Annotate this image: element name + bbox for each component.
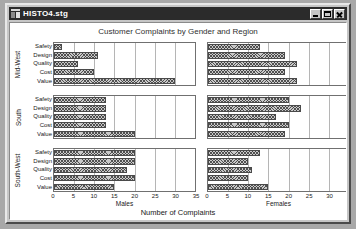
category-labels: SafetyDesignQualityCostValue bbox=[24, 148, 52, 192]
bar-slot bbox=[208, 158, 347, 164]
category-label: Value bbox=[37, 78, 52, 85]
x-tick-label: 10 bbox=[91, 193, 98, 199]
row-label-mid-west: Mid-West bbox=[12, 39, 24, 89]
category-labels: SafetyDesignQualityCostValue bbox=[24, 42, 52, 86]
bar-design[interactable] bbox=[208, 105, 301, 111]
bar-safety[interactable] bbox=[54, 150, 135, 156]
close-button[interactable] bbox=[334, 9, 345, 19]
bar-design[interactable] bbox=[54, 105, 106, 111]
bar-safety[interactable] bbox=[208, 44, 260, 50]
x-tick-label: 15 bbox=[265, 193, 272, 199]
category-label: Cost bbox=[40, 69, 52, 76]
minimize-button[interactable] bbox=[310, 9, 321, 19]
bar-slot bbox=[208, 122, 347, 128]
bar-slot bbox=[54, 150, 195, 156]
category-label: Safety bbox=[35, 149, 52, 156]
category-label: Safety bbox=[35, 96, 52, 103]
bar-slot bbox=[208, 44, 347, 50]
category-label: Quality bbox=[33, 60, 52, 67]
bar-slot bbox=[208, 69, 347, 75]
bar-slot bbox=[208, 175, 347, 181]
bar-slot bbox=[208, 131, 347, 137]
row-label-south-west: South-West bbox=[12, 145, 24, 195]
bar-design[interactable] bbox=[208, 158, 248, 164]
bar-slot bbox=[54, 69, 195, 75]
bar-value[interactable] bbox=[208, 131, 285, 137]
bar-design[interactable] bbox=[54, 158, 135, 164]
bar-quality[interactable] bbox=[54, 167, 127, 173]
subplot-south-males bbox=[53, 95, 196, 139]
application-window: HISTO4.stg Customer Complaints by Gender… bbox=[5, 3, 351, 224]
subplot-mid-west-males bbox=[53, 42, 196, 86]
bar-group bbox=[54, 43, 195, 85]
x-tick-label: 5 bbox=[226, 193, 229, 199]
bar-group bbox=[54, 149, 195, 191]
bar-quality[interactable] bbox=[208, 167, 252, 173]
bar-cost[interactable] bbox=[54, 175, 135, 181]
category-labels: SafetyDesignQualityCostValue bbox=[24, 95, 52, 139]
category-label: Quality bbox=[33, 166, 52, 173]
row-label-text: Mid-West bbox=[15, 50, 22, 77]
title-bar[interactable]: HISTO4.stg bbox=[9, 7, 347, 20]
bar-value[interactable] bbox=[208, 184, 268, 190]
bar-quality[interactable] bbox=[208, 61, 297, 67]
bar-slot bbox=[208, 97, 347, 103]
category-label: Value bbox=[37, 131, 52, 138]
bar-safety[interactable] bbox=[54, 97, 106, 103]
x-tick-label: 30 bbox=[172, 193, 179, 199]
x-tick-label: 0 bbox=[205, 193, 208, 199]
window-controls bbox=[310, 9, 345, 19]
bar-slot bbox=[54, 105, 195, 111]
bar-design[interactable] bbox=[208, 52, 285, 58]
panel-row: Mid-WestSafetyDesignQualityCostValue bbox=[10, 39, 346, 89]
bar-cost[interactable] bbox=[208, 175, 248, 181]
x-tick-label: 0 bbox=[51, 193, 54, 199]
bar-value[interactable] bbox=[208, 78, 297, 84]
bar-quality[interactable] bbox=[208, 114, 276, 120]
bar-slot bbox=[208, 167, 347, 173]
bar-slot bbox=[208, 114, 347, 120]
bar-slot bbox=[54, 122, 195, 128]
category-label: Design bbox=[33, 105, 52, 112]
bar-quality[interactable] bbox=[54, 114, 106, 120]
bar-safety[interactable] bbox=[54, 44, 62, 50]
desktop-background: HISTO4.stg Customer Complaints by Gender… bbox=[0, 0, 356, 229]
category-label: Design bbox=[33, 158, 52, 165]
bar-value[interactable] bbox=[54, 78, 175, 84]
bar-safety[interactable] bbox=[208, 97, 289, 103]
bar-group bbox=[208, 96, 347, 138]
window-title: HISTO4.stg bbox=[23, 9, 68, 18]
bar-value[interactable] bbox=[54, 184, 114, 190]
bar-value[interactable] bbox=[54, 131, 135, 137]
bar-quality[interactable] bbox=[54, 61, 78, 67]
bar-slot bbox=[54, 44, 195, 50]
bar-slot bbox=[54, 175, 195, 181]
bar-slot bbox=[54, 114, 195, 120]
column-label-males: Males bbox=[53, 200, 196, 207]
panel-row: South-WestSafetyDesignQualityCostValue bbox=[10, 145, 346, 195]
row-label-text: South-West bbox=[15, 153, 22, 187]
x-tick-label: 25 bbox=[306, 193, 313, 199]
row-label-south: South bbox=[12, 92, 24, 142]
bar-cost[interactable] bbox=[54, 69, 94, 75]
bar-safety[interactable] bbox=[208, 150, 260, 156]
bar-cost[interactable] bbox=[208, 69, 285, 75]
document-chart-icon bbox=[11, 9, 20, 18]
bar-slot bbox=[54, 131, 195, 137]
bar-group bbox=[54, 96, 195, 138]
subplot-mid-west-females bbox=[207, 42, 347, 86]
maximize-button[interactable] bbox=[322, 9, 333, 19]
bar-design[interactable] bbox=[54, 52, 98, 58]
x-tick-label: 5 bbox=[72, 193, 75, 199]
x-axis-males: 05101520253035Males bbox=[53, 193, 196, 207]
bar-slot bbox=[54, 184, 195, 190]
category-label: Cost bbox=[40, 122, 52, 129]
category-label: Cost bbox=[40, 175, 52, 182]
bar-slot bbox=[54, 97, 195, 103]
category-label: Quality bbox=[33, 113, 52, 120]
x-tick-label: 35 bbox=[193, 193, 200, 199]
x-tick-label: 10 bbox=[245, 193, 252, 199]
bar-slot bbox=[54, 52, 195, 58]
bar-cost[interactable] bbox=[54, 122, 106, 128]
bar-cost[interactable] bbox=[208, 122, 289, 128]
